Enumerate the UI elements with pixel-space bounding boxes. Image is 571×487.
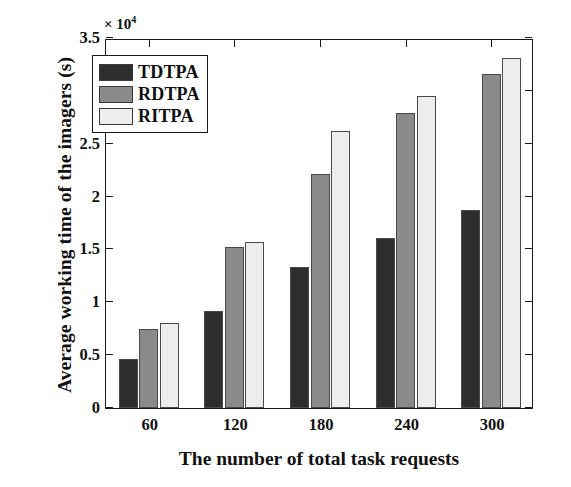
y-tick-label: 2.5 (79, 134, 100, 154)
y-tick-label: 0.5 (79, 345, 100, 365)
x-tick-mark-top (406, 40, 407, 47)
x-axis-title: The number of total task requests (105, 448, 533, 470)
x-tick-mark-top (491, 40, 492, 47)
y-tick-mark: 2.5 (106, 143, 113, 144)
y-tick-mark-right (525, 90, 532, 91)
bar-rdtpa-120 (225, 247, 244, 408)
x-tick-mark-top (234, 40, 235, 47)
bar-ritpa-180 (331, 131, 350, 408)
legend-swatch-rdtpa (99, 86, 133, 103)
y-tick-label: 1.5 (79, 239, 100, 259)
x-tick-label: 60 (142, 415, 159, 435)
y-tick-mark-right (525, 143, 532, 144)
bar-tdtpa-60 (119, 359, 138, 408)
bar-rdtpa-300 (482, 74, 501, 408)
y-tick-label: 1 (92, 292, 100, 312)
y-tick-mark-right (525, 301, 532, 302)
bar-tdtpa-120 (204, 311, 223, 408)
y-tick-mark: 0.5 (106, 354, 113, 355)
y-tick-mark: 1 (106, 301, 113, 302)
x-tick-label: 180 (309, 415, 334, 435)
y-tick-mark: 3.5 (106, 37, 113, 38)
x-tick-mark-top (320, 40, 321, 47)
x-tick-label: 240 (394, 415, 419, 435)
y-tick-mark-right (525, 354, 532, 355)
legend-item-rdtpa: RDTPA (99, 83, 200, 105)
bar-chart-figure: Average working time of the imagers (s) … (0, 0, 571, 487)
bar-ritpa-120 (245, 242, 264, 408)
y-tick-mark: 0 (106, 407, 113, 408)
bar-tdtpa-300 (461, 210, 480, 408)
legend-item-tdtpa: TDTPA (99, 61, 200, 83)
y-tick-mark-right (525, 248, 532, 249)
legend-swatch-ritpa (99, 108, 133, 125)
bar-tdtpa-240 (376, 238, 395, 408)
y-axis-exponent-power: 4 (131, 14, 136, 25)
bar-rdtpa-60 (139, 329, 158, 408)
y-axis-exponent-base: × 10 (104, 16, 131, 32)
bar-tdtpa-180 (290, 267, 309, 408)
y-tick-mark-right (525, 196, 532, 197)
bar-ritpa-300 (502, 58, 521, 408)
y-tick-label: 0 (92, 398, 100, 418)
bar-rdtpa-240 (396, 113, 415, 408)
legend-label-ritpa: RITPA (138, 106, 194, 127)
x-tick-label: 120 (223, 415, 248, 435)
y-tick-mark-right (525, 407, 532, 408)
legend: TDTPARDTPARITPA (92, 55, 208, 133)
legend-label-rdtpa: RDTPA (138, 84, 200, 105)
legend-swatch-tdtpa (99, 64, 133, 81)
y-axis-exponent: × 104 (104, 14, 136, 33)
y-tick-mark: 1.5 (106, 248, 113, 249)
y-tick-label: 2 (92, 187, 100, 207)
y-tick-mark: 2 (106, 196, 113, 197)
y-tick-mark-right (525, 37, 532, 38)
y-axis-title: Average working time of the imagers (s) (54, 25, 76, 425)
x-tick-label: 300 (480, 415, 505, 435)
y-tick-label: 3.5 (79, 28, 100, 48)
legend-item-ritpa: RITPA (99, 105, 200, 127)
bar-rdtpa-180 (311, 174, 330, 408)
legend-label-tdtpa: TDTPA (138, 62, 199, 83)
bar-ritpa-240 (417, 96, 436, 408)
bar-ritpa-60 (160, 323, 179, 408)
x-tick-mark-top (149, 40, 150, 47)
